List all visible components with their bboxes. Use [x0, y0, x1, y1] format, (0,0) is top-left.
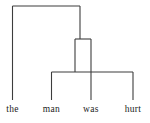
leaf-label-the: the: [6, 104, 19, 115]
syntax-tree-diagram: the man was hurt: [0, 0, 150, 123]
leaf-label-hurt: hurt: [125, 104, 142, 115]
leaf-label-man: man: [43, 104, 60, 115]
leaf-label-was: was: [83, 104, 99, 115]
